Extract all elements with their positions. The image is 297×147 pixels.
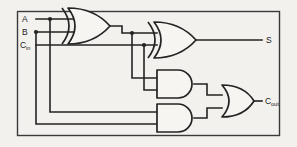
and2-body	[157, 104, 192, 132]
label-input-b: B	[22, 27, 28, 37]
circuit-diagram-canvas: A B C in S C out	[0, 0, 297, 147]
xor1-body	[68, 8, 110, 44]
gate-and-2	[157, 104, 192, 132]
and1-body	[157, 70, 192, 98]
label-input-a: A	[22, 14, 28, 24]
junction-xor1-out	[130, 31, 134, 35]
full-adder-schematic: A B C in S C out	[0, 0, 297, 147]
gate-and-1	[157, 70, 192, 98]
label-output-s: S	[266, 35, 272, 45]
wire-and1-to-or	[194, 84, 222, 95]
junction-b	[34, 30, 38, 34]
xor1-back-arc	[62, 8, 69, 44]
gate-xor-2	[148, 22, 196, 58]
xor2-body	[154, 22, 196, 58]
label-input-cin-subscript: in	[26, 45, 30, 51]
or1-body	[222, 85, 254, 117]
junction-cin	[142, 43, 146, 47]
gate-xor-1	[62, 8, 110, 44]
label-output-cout-subscript: out	[271, 101, 279, 107]
wire-and2-to-or	[194, 108, 222, 118]
gate-or-1	[222, 85, 254, 117]
junction-a	[48, 17, 52, 21]
wire-cin-to-and1	[144, 45, 157, 90]
diagram-frame	[18, 12, 280, 136]
xor2-back-arc	[148, 22, 155, 58]
